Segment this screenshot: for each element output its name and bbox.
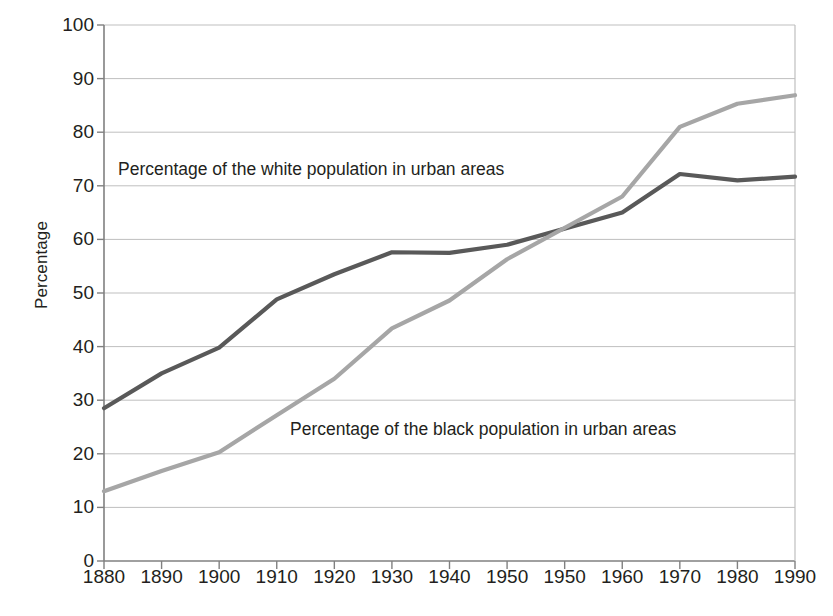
y-tick-label: 80 <box>48 122 94 141</box>
y-tick-label: 100 <box>48 15 94 34</box>
y-tick-label: 10 <box>48 497 94 516</box>
line-chart: Percentage 0102030405060708090100 188018… <box>0 0 833 616</box>
plot-area <box>0 0 833 616</box>
x-tick-label: 1990 <box>760 566 830 588</box>
tick-marks <box>97 25 795 569</box>
y-axis-tick-labels: 0102030405060708090100 <box>10 0 94 616</box>
y-tick-label: 40 <box>48 337 94 356</box>
y-tick-label: 50 <box>48 283 94 302</box>
y-tick-label: 60 <box>48 229 94 248</box>
y-tick-label: 70 <box>48 176 94 195</box>
y-tick-label: 20 <box>48 444 94 463</box>
x-axis-tick-labels: 1880189019001910192019301940195019501960… <box>0 566 833 606</box>
y-tick-label: 30 <box>48 390 94 409</box>
y-tick-label: 90 <box>48 69 94 88</box>
series-label-white-population: Percentage of the white population in ur… <box>118 159 504 179</box>
series-label-black-population: Percentage of the black population in ur… <box>290 419 676 439</box>
